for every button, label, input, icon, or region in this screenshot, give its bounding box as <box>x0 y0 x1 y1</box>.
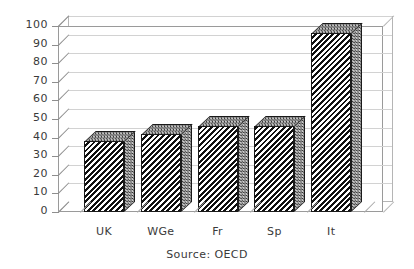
bar-side-face <box>294 116 305 212</box>
y-axis-tick-label: 30 <box>14 148 48 161</box>
depth-edge-bottom-right <box>383 201 394 212</box>
bar-fr <box>198 116 238 212</box>
y-axis-tick-label: 50 <box>14 111 48 124</box>
y-axis-tick-label: 40 <box>14 130 48 143</box>
y-axis-tick-label: 100 <box>14 18 48 31</box>
bar-chart: 0102030405060708090100 UKWGeFrSpIt Sourc… <box>0 0 414 269</box>
bar-side-face <box>238 116 249 212</box>
x-axis-tick-label-it: It <box>295 225 367 238</box>
y-axis-tick-label: 70 <box>14 74 48 87</box>
bar-side-face <box>181 124 192 212</box>
gridline <box>69 16 392 17</box>
bar-side-face <box>124 131 135 212</box>
bar-sp <box>254 116 294 212</box>
y-axis-tick-label: 60 <box>14 92 48 105</box>
bar-it <box>311 23 351 212</box>
bar-front-face <box>254 126 294 212</box>
bar-front-face <box>311 33 351 212</box>
y-axis-tick-label: 80 <box>14 55 48 68</box>
bar-uk <box>84 131 124 212</box>
y-axis-tick-label: 10 <box>14 185 48 198</box>
y-axis-tick-label: 20 <box>14 167 48 180</box>
y-axis-tick-label: 90 <box>14 37 48 50</box>
bar-side-face <box>351 23 362 212</box>
bar-wge <box>141 124 181 212</box>
bar-front-face <box>198 126 238 212</box>
source-caption: Source: OECD <box>0 248 414 261</box>
y-axis-tick-label: 0 <box>14 204 48 217</box>
